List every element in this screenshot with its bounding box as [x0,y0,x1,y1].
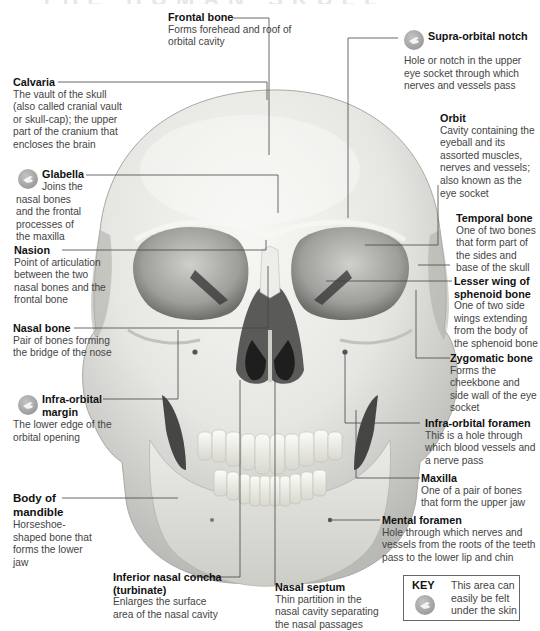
label-title: Orbit [440,112,540,125]
label-description: One of two side wings extending from the… [454,300,540,350]
palpable-hand-icon [18,395,38,415]
label-lesser-wing-sphenoid: Lesser wing of sphenoid bone One of two … [454,275,540,351]
label-title: Temporal bone [456,212,540,225]
label-title: Lesser wing of sphenoid bone [454,275,540,300]
label-glabella-description: Joins the nasal bones and the frontal pr… [16,181,88,244]
label-title: Nasal septum [275,581,385,594]
label-description: Cavity containing the eyeball and its as… [440,125,540,201]
label-description: Enlarges the surface area of the nasal c… [113,596,223,621]
label-glabella: Glabella [42,168,87,181]
right-orbit [291,227,409,320]
label-title: Calvaria [13,76,131,89]
left-orbit [133,227,248,320]
key-description: This area can easily be felt under the s… [451,579,517,617]
label-description: Pair of bones forming the bridge of the … [13,335,113,360]
label-supra-orbital-notch-description: Hole or notch in the upper eye socket th… [404,55,540,93]
palpable-hand-icon [404,30,424,50]
label-description: Hole or notch in the upper eye socket th… [404,55,540,93]
label-mental-foramen: Mental foramen Hole through which nerves… [382,514,540,564]
label-title: Nasion [14,244,110,257]
key-title: KEY [412,579,435,591]
label-title: Glabella [42,168,87,181]
label-body-of-mandible: Body of mandible Horseshoe-shaped bone t… [13,492,95,569]
label-description: This is a hole through which blood vesse… [425,430,540,468]
label-infra-orbital-margin: Infra-orbital margin [42,393,104,418]
label-description: Thin partition in the nasal cavity separ… [275,594,385,631]
hand-pointing-icon [415,595,435,615]
label-title: Inferior nasal concha (turbinate) [113,571,223,596]
label-supra-orbital-notch: Supra-orbital notch [428,30,540,43]
label-description: Hole through which nerves and vessels fr… [382,527,540,565]
label-title: Frontal bone [168,11,298,24]
label-title: Mental foramen [382,514,540,527]
label-inferior-nasal-concha: Inferior nasal concha (turbinate) Enlarg… [113,571,223,621]
label-title: Zygomatic bone [450,352,540,365]
label-description: Horseshoe-shaped bone that forms the low… [13,519,95,569]
label-calvaria: Calvaria The vault of the skull (also ca… [13,76,131,152]
label-description: One of a pair of bones that form the upp… [421,485,540,510]
label-description: The vault of the skull (also called cran… [13,89,131,152]
label-title: Infra-orbital margin [42,393,104,418]
label-temporal-bone: Temporal bone One of two bones that form… [456,212,540,275]
label-infra-orbital-margin-description: The lower edge of the orbital opening [13,419,113,444]
label-zygomatic-bone: Zygomatic bone Forms the cheekbone and s… [450,352,540,415]
label-description: Forms forehead and roof of orbital cavit… [168,24,298,49]
label-description: The lower edge of the orbital opening [13,419,113,444]
label-description: Point of articulation between the two na… [14,257,110,307]
label-infra-orbital-foramen: Infra-orbital foramen This is a hole thr… [425,417,540,467]
label-description: Joins the nasal bones and the frontal pr… [16,181,88,244]
key-legend: KEY This area can easily be felt under t… [403,575,520,621]
label-title: Infra-orbital foramen [425,417,540,430]
label-nasal-bone: Nasal bone Pair of bones forming the bri… [13,322,113,360]
label-frontal-bone: Frontal bone Forms forehead and roof of … [168,11,298,49]
label-orbit: Orbit Cavity containing the eyeball and … [440,112,540,200]
label-description: Forms the cheekbone and side wall of the… [450,365,540,415]
label-maxilla: Maxilla One of a pair of bones that form… [421,472,540,510]
label-nasal-septum: Nasal septum Thin partition in the nasal… [275,581,385,631]
label-title: Supra-orbital notch [428,30,540,43]
label-description: One of two bones that form part of the s… [456,225,540,275]
label-nasion: Nasion Point of articulation between the… [14,244,110,307]
label-title: Nasal bone [13,322,113,335]
label-title: Body of mandible [13,492,95,519]
label-title: Maxilla [421,472,540,485]
